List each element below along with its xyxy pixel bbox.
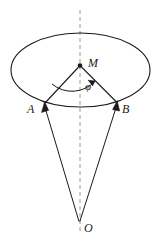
vector-o-to-a [46,110,79,222]
point-marker-m [78,63,83,68]
figure-canvas: M A B O φ [0,0,162,243]
angle-label-phi: φ [85,81,91,92]
arrow-up-left-icon [42,102,49,113]
point-label-m: M [88,57,98,69]
point-label-o: O [84,222,93,234]
segment-m-to-a [45,66,81,104]
point-label-a: A [27,103,34,115]
cone-geometry-diagram [0,0,162,243]
vector-o-to-b [80,109,116,222]
point-label-b: B [122,103,129,115]
